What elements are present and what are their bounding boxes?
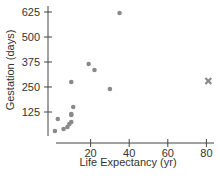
data-point — [117, 11, 122, 16]
data-point — [86, 62, 91, 67]
x-axis-label: Life Expectancy (yr) — [79, 156, 176, 168]
data-points — [53, 11, 212, 134]
data-point — [69, 120, 74, 125]
x-tick-label: 80 — [200, 147, 212, 159]
y-tick-label: 625 — [22, 6, 40, 18]
y-axis-label: Gestation (days) — [4, 30, 16, 111]
axes: 12525037550062520406080 — [22, 6, 214, 159]
data-point — [92, 68, 97, 73]
data-point — [69, 80, 74, 85]
y-tick-label: 125 — [22, 106, 40, 118]
y-tick-label: 500 — [22, 31, 40, 43]
data-point — [108, 87, 113, 92]
y-tick-label: 375 — [22, 56, 40, 68]
y-tick-label: 250 — [22, 81, 40, 93]
data-point — [53, 129, 58, 134]
scatter-chart: 12525037550062520406080 Life Expectancy … — [0, 0, 220, 187]
data-point — [71, 105, 76, 110]
outlier-x-marker — [205, 78, 211, 84]
data-point — [69, 112, 74, 117]
data-point — [55, 117, 60, 122]
